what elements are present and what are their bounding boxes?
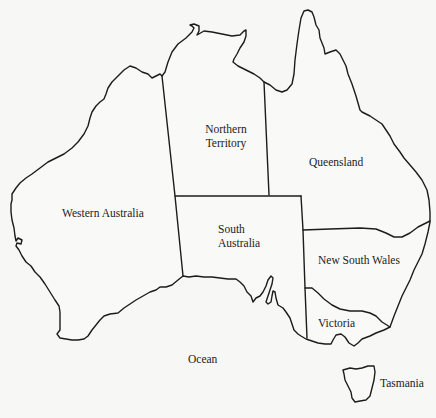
label-northern-territory-line1: Northern xyxy=(196,122,256,136)
label-northern-territory-line2: Territory xyxy=(196,136,256,150)
label-ocean: Ocean xyxy=(188,352,217,366)
label-new-south-wales: New South Wales xyxy=(318,253,400,267)
label-south-australia-line2: Australia xyxy=(218,236,260,250)
label-victoria: Victoria xyxy=(318,316,355,330)
label-northern-territory: Northern Territory xyxy=(196,122,256,150)
label-south-australia-line1: South xyxy=(218,222,260,236)
label-queensland: Queensland xyxy=(309,155,363,169)
label-western-australia: Western Australia xyxy=(62,206,144,220)
tasmania-outline xyxy=(343,366,375,402)
label-south-australia: South Australia xyxy=(218,222,260,250)
mainland-coastline xyxy=(11,10,430,346)
label-tasmania: Tasmania xyxy=(380,376,424,390)
